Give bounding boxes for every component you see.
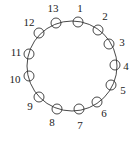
node-circle-12 <box>34 28 44 38</box>
node-label-13: 13 <box>48 2 60 14</box>
node-label-4: 4 <box>123 60 129 72</box>
node-circle-6 <box>92 97 102 107</box>
node-label-2: 2 <box>102 10 108 22</box>
node-label-8: 8 <box>49 116 55 128</box>
node-circle-4 <box>110 60 120 70</box>
node-label-11: 11 <box>11 46 22 58</box>
node-label-3: 3 <box>119 36 125 48</box>
node-circle-8 <box>52 104 62 114</box>
node-label-1: 1 <box>77 2 83 14</box>
node-label-5: 5 <box>120 84 126 96</box>
circular-node-diagram: 12345678910111213 <box>0 0 137 143</box>
node-label-7: 7 <box>77 119 83 131</box>
node-label-6: 6 <box>101 107 107 119</box>
node-label-9: 9 <box>27 100 33 112</box>
node-circle-2 <box>93 25 103 35</box>
main-ring <box>27 21 117 111</box>
node-circle-7 <box>74 104 84 114</box>
node-label-12: 12 <box>24 16 35 28</box>
node-label-10: 10 <box>10 73 22 85</box>
